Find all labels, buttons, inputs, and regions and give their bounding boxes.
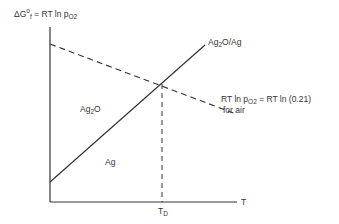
y-axis-label: ΔGof = RT ln pO2 [14, 10, 77, 19]
x-axis-label: T [241, 198, 246, 207]
ag2o-ag-equilibrium-line [50, 45, 205, 182]
air-line-label-for-air: for air [223, 106, 245, 115]
air-oxygen-potential-dashed-line [50, 44, 236, 114]
region-label-ag2o: Ag2O [80, 105, 101, 114]
td-marker-label: TD [158, 207, 168, 216]
air-line-label: RT ln pO2 = RT ln (0.21) [221, 95, 311, 104]
region-label-ag: Ag [105, 158, 115, 167]
diagram-canvas [0, 0, 339, 224]
ag2o-ag-line-label: Ag2O/Ag [208, 38, 241, 47]
